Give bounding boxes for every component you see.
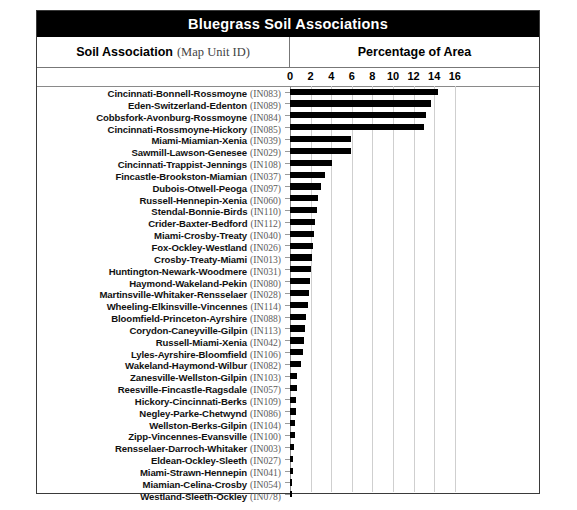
plot-area: Cincinnati-Bonnell-Rossmoyne(IN083)Eden-… (37, 86, 539, 492)
bar-row-label: Crider-Baxter-Bedford(IN112) (148, 216, 286, 228)
bar-row: Zanesville-Wellston-Gilpin(IN103) (37, 370, 539, 382)
bar (290, 373, 297, 379)
bar-row-label: Sawmill-Lawson-Genesee(IN029) (131, 145, 286, 157)
bar-row-label: Fincastle-Brookston-Miamian(IN037) (115, 169, 286, 181)
bar (290, 325, 305, 331)
bar-row: Cincinnati-Bonnell-Rossmoyne(IN083) (37, 86, 539, 98)
bar-row-label: Crosby-Treaty-Miami(IN013) (154, 252, 286, 264)
bar-row-label: Fox-Ockley-Westland(IN026) (152, 240, 286, 252)
bar-row: Cincinnati-Rossmoyne-Hickory(IN085) (37, 122, 539, 134)
bar (290, 183, 321, 189)
bar-row-label: Eldean-Ockley-Sleeth(IN027) (151, 453, 286, 465)
bar-row: Crider-Baxter-Bedford(IN112) (37, 216, 539, 228)
bar-row-label: Dubois-Otwell-Peoga(IN097) (153, 181, 286, 193)
x-tick-label: 10 (387, 70, 399, 82)
bar (290, 160, 332, 166)
x-tick-label: 0 (287, 70, 293, 82)
bar (290, 444, 294, 450)
bar (290, 100, 431, 106)
header-left-bold: Soil Association (76, 45, 173, 59)
bar (290, 195, 318, 201)
bar-row-label: Cobbsfork-Avonburg-Rossmoyne(IN084) (96, 110, 286, 122)
bar-row-label: Russell-Miami-Xenia(IN042) (156, 335, 286, 347)
bar-row: Wakeland-Haymond-Wilbur(IN082) (37, 358, 539, 370)
x-tick-label: 2 (308, 70, 314, 82)
chart-title-bar: Bluegrass Soil Associations (37, 11, 539, 37)
bar-row: Zipp-Vincennes-Evansville(IN100) (37, 429, 539, 441)
bar-row: Wheeling-Elkinsville-Vincennes(IN114) (37, 299, 539, 311)
bar-row: Sawmill-Lawson-Genesee(IN029) (37, 145, 539, 157)
bar-rows: Cincinnati-Bonnell-Rossmoyne(IN083)Eden-… (37, 86, 539, 501)
bar-row-label: Russell-Hennepin-Xenia(IN060) (139, 193, 286, 205)
x-axis-tick-labels: 0246810121416 (37, 68, 539, 86)
column-header-row: Soil Association (Map Unit ID) Percentag… (37, 37, 539, 68)
bar (290, 397, 296, 403)
x-tick-label: 12 (407, 70, 419, 82)
bar (290, 124, 424, 130)
bar-row: Westland-Sleeth-Ockley(IN078) (37, 489, 539, 501)
header-percentage-of-area: Percentage of Area (290, 37, 539, 67)
bar-row-label: Martinsville-Whitaker-Rensselaer(IN028) (99, 287, 286, 299)
bar (290, 456, 293, 462)
bar (290, 254, 312, 260)
soil-association-name: Westland-Sleeth-Ockley (140, 491, 247, 502)
bar-row-label: Miami-Miamian-Xenia(IN039) (151, 133, 286, 145)
bar-row-label: Cincinnati-Rossmoyne-Hickory(IN085) (108, 122, 286, 134)
bar-row-label: Lyles-Ayrshire-Bloomfield(IN106) (131, 347, 286, 359)
bar-row-label: Miamian-Celina-Crosby(IN054) (143, 477, 286, 489)
bar-row-label: Cincinnati-Bonnell-Rossmoyne(IN083) (108, 86, 286, 98)
bar-row: Cincinnati-Trappist-Jennings(IN108) (37, 157, 539, 169)
bar-row-label: Eden-Switzerland-Edenton(IN089) (128, 98, 286, 110)
bar-row: Haymond-Wakeland-Pekin(IN080) (37, 276, 539, 288)
bar (290, 172, 325, 178)
bar-row-label: Rensselaer-Darroch-Whitaker(IN003) (115, 441, 286, 453)
bar-row-label: Wellston-Berks-Gilpin(IN104) (149, 418, 286, 430)
bar (290, 491, 292, 497)
bar (290, 89, 438, 95)
header-soil-association: Soil Association (Map Unit ID) (37, 37, 290, 67)
bar-row: Russell-Hennepin-Xenia(IN060) (37, 193, 539, 205)
bar-row: Crosby-Treaty-Miami(IN013) (37, 252, 539, 264)
page-title: Bluegrass Soil Associations (188, 16, 388, 32)
bar-row-label: Huntington-Newark-Woodmere(IN031) (109, 264, 286, 276)
bar-row-label: Corydon-Caneyville-Gilpin(IN113) (129, 323, 286, 335)
bar-row: Miamian-Celina-Crosby(IN054) (37, 477, 539, 489)
bar-row: Russell-Miami-Xenia(IN042) (37, 335, 539, 347)
bar (290, 266, 311, 272)
bar-row: Cobbsfork-Avonburg-Rossmoyne(IN084) (37, 110, 539, 122)
bar (290, 314, 306, 320)
map-unit-id: (IN078) (250, 491, 281, 502)
bar (290, 479, 292, 485)
bar-row-label: Reesville-Fincastle-Ragsdale(IN057) (118, 382, 286, 394)
bar-row: Martinsville-Whitaker-Rensselaer(IN028) (37, 287, 539, 299)
bar (290, 385, 297, 391)
bar-row: Corydon-Caneyville-Gilpin(IN113) (37, 323, 539, 335)
bar (290, 148, 351, 154)
bar (290, 243, 313, 249)
bar-row-label: Wheeling-Elkinsville-Vincennes(IN114) (107, 299, 286, 311)
bar (290, 432, 295, 438)
bar-row-label: Hickory-Cincinnati-Berks(IN109) (135, 394, 286, 406)
bar-row: Eden-Switzerland-Edenton(IN089) (37, 98, 539, 110)
bar-row-label: Miami-Strawn-Hennepin(IN041) (140, 465, 286, 477)
bar (290, 337, 304, 343)
bar-row: Miami-Strawn-Hennepin(IN041) (37, 465, 539, 477)
bar-row-label: Zanesville-Wellston-Gilpin(IN103) (130, 370, 286, 382)
bar-row: Bloomfield-Princeton-Ayrshire(IN088) (37, 311, 539, 323)
x-tick-label: 14 (428, 70, 440, 82)
bar-row: Wellston-Berks-Gilpin(IN104) (37, 418, 539, 430)
bar (290, 420, 295, 426)
bar (290, 302, 308, 308)
bar-row-label: Wakeland-Haymond-Wilbur(IN082) (125, 358, 286, 370)
bar (290, 408, 296, 414)
bar-row: Hickory-Cincinnati-Berks(IN109) (37, 394, 539, 406)
bar (290, 136, 351, 142)
bar-row-label: Negley-Parke-Chetwynd(IN086) (139, 406, 286, 418)
bar-row: Lyles-Ayrshire-Bloomfield(IN106) (37, 347, 539, 359)
bar (290, 219, 315, 225)
bar (290, 361, 301, 367)
bar (290, 112, 426, 118)
bar-row-label: Cincinnati-Trappist-Jennings(IN108) (118, 157, 286, 169)
bar-row: Fox-Ockley-Westland(IN026) (37, 240, 539, 252)
bar-row-label: Miami-Crosby-Treaty(IN040) (154, 228, 286, 240)
